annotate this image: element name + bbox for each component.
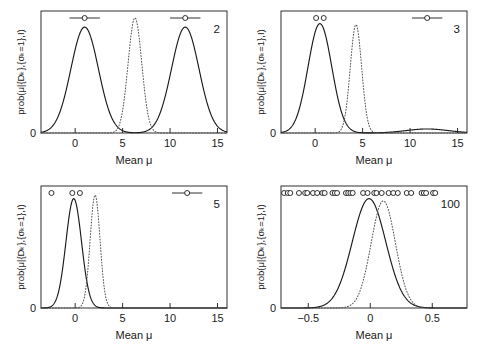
data-marker [82,16,87,21]
data-markers [314,16,443,21]
data-marker [348,191,353,196]
x-tick-label: 0.5 [425,312,440,324]
x-tick-label: 0 [312,137,318,149]
x-axis-title: Mean μ [116,329,153,341]
data-marker [361,191,366,196]
y-tick-label-zero: 0 [270,302,276,314]
y-tick-label-zero: 0 [270,127,276,139]
data-marker [185,191,190,196]
data-marker [332,191,337,196]
data-marker [310,191,315,196]
panel-number-label: 2 [214,23,220,35]
x-axis-title: Mean μ [356,154,393,166]
data-marker [409,191,414,196]
x-tick-label: 0 [72,312,78,324]
data-marker [321,16,326,21]
data-marker [288,191,293,196]
y-axis-title: prob(μ|{Dₖ},{σₖ=1},I) [15,29,26,114]
x-tick-label: 0 [367,312,373,324]
x-tick-label: 5 [360,137,366,149]
data-marker [425,16,430,21]
data-marker [395,191,400,196]
y-tick-label-zero: 0 [30,302,36,314]
data-marker [305,191,310,196]
x-axis-ticks [75,303,217,308]
data-markers [69,16,200,21]
data-marker [303,191,308,196]
x-tick-label: 15 [211,312,223,324]
x-axis-title: Mean μ [356,329,393,341]
x-axis-title: Mean μ [116,154,153,166]
plot-frame [41,186,227,308]
data-marker [77,191,82,196]
data-marker [433,191,438,196]
data-marker [346,191,351,196]
x-tick-label: 0 [72,137,78,149]
data-marker [322,191,327,196]
x-tick-label: 5 [120,137,126,149]
figure-canvas: 0510150Mean μprob(μ|{Dₖ},{σₖ=1},I)205101… [0,0,477,350]
x-tick-label: 15 [451,137,463,149]
data-marker [391,191,396,196]
data-marker [314,16,319,21]
curve-gaussian-dotted [281,25,467,133]
data-marker [343,191,348,196]
data-marker [320,191,325,196]
data-marker [386,191,391,196]
curve-posterior-solid [41,27,227,133]
panel-number-label: 5 [214,198,220,210]
x-tick-label: 15 [211,137,223,149]
data-marker [421,191,426,196]
x-axis-ticks [308,303,432,308]
data-marker [183,16,188,21]
x-tick-label: −0.5 [297,312,319,324]
data-marker [372,191,377,196]
x-tick-label: 10 [164,312,176,324]
data-markers [282,191,438,196]
data-markers [49,191,202,196]
y-axis-title: prob(μ|{Dₖ},{σₖ=1},I) [255,204,266,289]
data-marker [49,191,54,196]
data-marker [379,191,384,196]
data-marker [419,191,424,196]
data-marker [365,191,370,196]
plot-frame [281,186,467,308]
y-axis-title: prob(μ|{Dₖ},{σₖ=1},I) [255,29,266,114]
data-marker [404,191,409,196]
curve-gaussian-dotted [41,195,227,308]
x-tick-label: 10 [404,137,416,149]
data-marker [285,191,290,196]
data-marker [350,191,355,196]
curve-gaussian-dotted [41,18,227,133]
x-axis-ticks [315,128,457,133]
plot-frame [41,11,227,133]
data-marker [70,191,75,196]
curve-gaussian-dotted [281,201,467,308]
curve-posterior-solid [41,199,227,308]
curve-posterior-solid [281,199,467,308]
y-axis-title: prob(μ|{Dₖ},{σₖ=1},I) [15,204,26,289]
curve-posterior-solid [281,24,467,133]
y-tick-label-zero: 0 [30,127,36,139]
data-marker [330,191,335,196]
x-tick-label: 5 [120,312,126,324]
data-marker [296,191,301,196]
data-marker [424,191,429,196]
data-marker [431,191,436,196]
data-marker [315,191,320,196]
data-marker [335,191,340,196]
panel-number-label: 100 [441,198,460,210]
x-axis-ticks [75,128,217,133]
plot-frame [281,11,467,133]
x-tick-label: 10 [164,137,176,149]
data-marker [374,191,379,196]
data-marker [282,191,287,196]
panel-number-label: 3 [454,23,460,35]
